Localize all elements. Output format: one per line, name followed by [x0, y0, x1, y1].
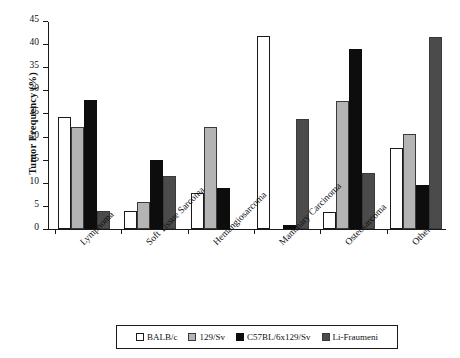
y-axis-tick: 5 — [43, 206, 48, 207]
legend-swatch-icon — [136, 333, 144, 341]
y-axis-tick-label: 20 — [30, 130, 40, 140]
y-axis-tick: 15 — [43, 160, 48, 161]
bar — [204, 127, 217, 229]
bar — [390, 148, 403, 229]
x-axis-tick — [254, 230, 255, 234]
legend-swatch-icon — [322, 333, 330, 341]
y-axis-tick-label: 30 — [30, 83, 40, 93]
y-axis-tick: 45 — [43, 21, 48, 22]
legend-swatch-icon — [236, 333, 244, 341]
x-axis-tick — [320, 230, 321, 234]
legend-item-label: BALB/c — [147, 332, 178, 342]
bar — [137, 202, 150, 229]
legend-item: BALB/c — [136, 332, 178, 342]
y-axis-tick: 0 — [43, 229, 48, 230]
y-axis-tick: 40 — [43, 44, 48, 45]
legend-item: C57BL/6x129/Sv — [236, 332, 311, 342]
bar-group — [124, 22, 176, 229]
bar — [429, 37, 442, 229]
x-axis-tick — [387, 230, 388, 234]
chart-legend: BALB/c 129/Sv C57BL/6x129/Sv Li-Fraumeni — [116, 325, 398, 349]
y-axis-tick-label: 0 — [34, 222, 39, 232]
x-axis-tick — [121, 230, 122, 234]
x-axis-tick — [55, 230, 56, 234]
y-axis-tick: 25 — [43, 113, 48, 114]
bar-group — [390, 22, 442, 229]
bar — [71, 127, 84, 229]
bar — [336, 101, 349, 229]
y-axis-tick-label: 45 — [30, 14, 40, 24]
legend-item: 129/Sv — [188, 332, 225, 342]
chart-figure: Tumor Frequency (%) 051015202530354045 L… — [0, 0, 460, 358]
plot-area: 051015202530354045 — [48, 22, 446, 230]
bar — [124, 211, 137, 229]
legend-item-label: 129/Sv — [199, 332, 225, 342]
legend-item-label: C57BL/6x129/Sv — [247, 332, 311, 342]
bar — [416, 185, 429, 229]
y-axis-tick-label: 10 — [30, 176, 40, 186]
legend-item-label: Li-Fraumeni — [333, 332, 379, 342]
y-axis-tick: 10 — [43, 183, 48, 184]
legend-swatch-icon — [188, 333, 196, 341]
y-axis-tick: 35 — [43, 67, 48, 68]
bar — [403, 134, 416, 229]
y-axis-tick-label: 15 — [30, 153, 40, 163]
y-axis-tick-label: 40 — [30, 37, 40, 47]
y-axis-tick-label: 35 — [30, 60, 40, 70]
bar-group — [58, 22, 110, 229]
bar — [323, 212, 336, 229]
y-axis-tick-label: 25 — [30, 106, 40, 116]
legend-item: Li-Fraumeni — [322, 332, 379, 342]
bar — [58, 117, 71, 229]
y-axis-tick: 30 — [43, 90, 48, 91]
x-axis-tick — [188, 230, 189, 234]
y-axis-tick-label: 5 — [34, 199, 39, 209]
y-axis-line — [48, 22, 49, 230]
bar — [349, 49, 362, 229]
y-axis-tick: 20 — [43, 137, 48, 138]
bar — [150, 160, 163, 229]
bar — [84, 100, 97, 229]
